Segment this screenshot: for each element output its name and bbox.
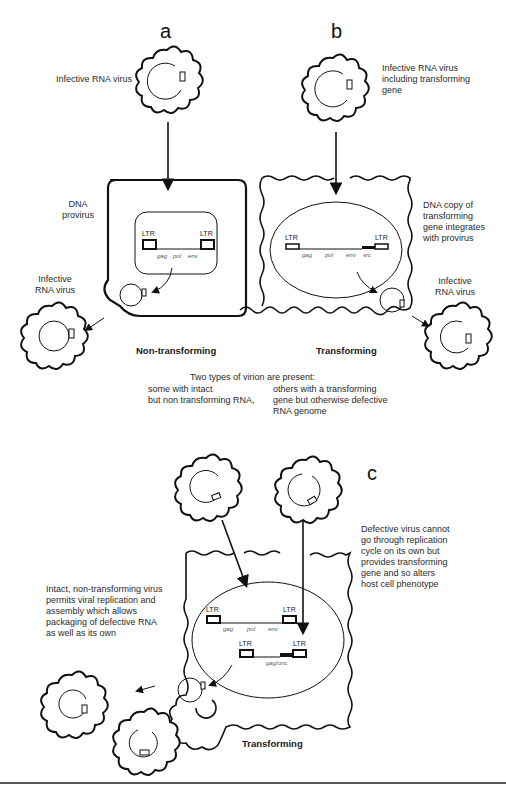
- panel-b-caption: Transforming: [316, 345, 377, 356]
- exiting-virion-icon: [425, 302, 492, 369]
- svg-text:env: env: [268, 626, 279, 632]
- middle-heading: Two types of virion are present:: [190, 372, 315, 383]
- svg-text:gag: gag: [223, 626, 234, 632]
- svg-text:src: src: [363, 252, 371, 258]
- svg-text:LTR: LTR: [285, 234, 298, 241]
- panel-a-caption: Non-transforming: [136, 345, 216, 356]
- intact-virion-icon: [175, 454, 242, 521]
- svg-text:gag/onc: gag/onc: [266, 660, 287, 666]
- svg-text:env: env: [188, 253, 199, 259]
- svg-text:LTR: LTR: [283, 606, 296, 613]
- panel-a-top-label: Infective RNA virus: [56, 74, 132, 85]
- panel-a: LTR LTR gag pol env: [21, 46, 246, 369]
- svg-text:gag: gag: [302, 252, 313, 258]
- panel-b-top-label: Infective RNA virus including transformi…: [382, 63, 470, 96]
- svg-text:LTR: LTR: [375, 234, 388, 241]
- svg-text:LTR: LTR: [200, 230, 213, 237]
- exiting-virion-icon: [21, 302, 88, 369]
- svg-text:gag: gag: [157, 253, 168, 259]
- panel-a-dna-provirus-label: DNA provirus: [58, 199, 98, 221]
- released-virion-icon: [41, 671, 108, 738]
- panel-c-right-label: Defective virus cannot go through replic…: [361, 524, 450, 590]
- released-virion-icon: [113, 708, 180, 775]
- panel-a-exit-label: Infective RNA virus: [30, 274, 80, 296]
- panel-b-letter: b: [331, 20, 342, 43]
- svg-text:env: env: [346, 252, 357, 258]
- virion-icon: [136, 46, 203, 113]
- svg-text:pol: pol: [324, 252, 334, 258]
- panel-b-exit-label: Infective RNA virus: [430, 276, 480, 298]
- middle-left-text: some with intact but non transforming RN…: [148, 384, 255, 406]
- panel-c-left-label: Intact, non-transforming virus permits v…: [46, 584, 163, 639]
- svg-text:LTR: LTR: [142, 230, 155, 237]
- panel-c-letter: c: [367, 462, 377, 485]
- virion-icon: [302, 54, 369, 121]
- svg-text:LTR: LTR: [206, 606, 219, 613]
- middle-right-text: others with a transforming gene but othe…: [273, 384, 388, 417]
- svg-text:LTR: LTR: [239, 640, 252, 647]
- svg-text:LTR: LTR: [293, 640, 306, 647]
- panel-a-letter: a: [160, 20, 171, 43]
- bottom-divider: [0, 782, 506, 784]
- svg-text:pol: pol: [246, 626, 256, 632]
- svg-text:pol: pol: [172, 253, 182, 259]
- panel-b-side-label: DNA copy of transforming gene integrates…: [423, 200, 485, 244]
- defective-virion-icon: [275, 456, 342, 523]
- panel-c-caption: Transforming: [242, 738, 303, 749]
